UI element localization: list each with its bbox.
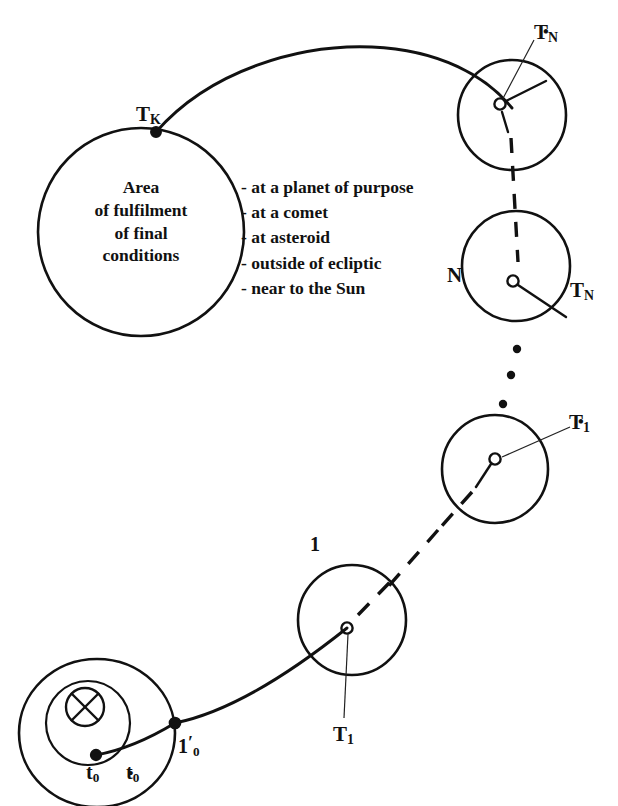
list-item: - at a comet [241, 200, 456, 225]
final-conditions-list: - at a planet of purpose - at a comet - … [241, 175, 456, 301]
label-t0-star-sub: 0 [133, 770, 140, 785]
ellipsis-dot-2 [507, 371, 515, 379]
list-item: - outside of ecliptic [241, 251, 456, 276]
label-tk-sub: K [150, 112, 161, 127]
label-sphere-one: 1 [310, 534, 320, 554]
label-one-prime-zero-base: 1 [178, 735, 188, 757]
label-tk-base: T [136, 102, 150, 126]
dashed-link-n-circles [511, 138, 518, 262]
area-line-1: Area [50, 176, 232, 199]
dashed-inner-segment-lower [358, 580, 392, 615]
label-t0: t0 [86, 762, 99, 784]
label-tn: TN [570, 280, 594, 303]
sphere-n-exit-circle [458, 60, 566, 170]
tn-star-node-marker [494, 98, 505, 109]
ellipsis-dot-3 [499, 400, 507, 408]
label-t1: T1 [333, 724, 354, 747]
dashed-inner-segment-upper [440, 492, 472, 528]
area-line-4: conditions [50, 244, 232, 267]
dashed-link-one-circles [386, 530, 438, 589]
t1-star-leader-line [502, 427, 570, 457]
ellipsis-dot-1 [513, 345, 521, 353]
list-item: - at a planet of purpose [241, 175, 456, 200]
label-t0-star: t0 [126, 762, 139, 784]
label-tk: TK [136, 104, 161, 127]
sphere-one-entry-circle [298, 565, 406, 675]
label-one-prime-zero-sub: 0 [193, 744, 200, 759]
label-t1-star-sub: 1 [583, 420, 590, 435]
label-tn-base: T [570, 278, 584, 302]
list-item: - near to the Sun [241, 276, 456, 301]
label-one-prime-zero: 1′0 [178, 734, 200, 758]
area-line-2: of fulfilment [50, 199, 232, 222]
label-tn-star: TN [534, 22, 558, 45]
label-sphere-one-base: 1 [310, 533, 320, 555]
trajectory-diagram: TK TN TN N T1 T1 1 t0 t0 1′0 Area of ful… [0, 0, 618, 806]
sphere-one-exit-stub [476, 464, 491, 487]
tn-star-spoke [500, 81, 546, 104]
label-t1-base: T [333, 722, 347, 746]
label-t0-sub: 0 [93, 770, 100, 785]
area-of-fulfilment-text: Area of fulfilment of final conditions [50, 176, 232, 267]
label-t1-star: T1 [569, 412, 590, 435]
sphere-one-exit-circle [442, 415, 548, 523]
label-t1-sub: 1 [347, 732, 354, 747]
trajectory-arc-lower [175, 628, 347, 723]
label-tn-sub: N [584, 288, 594, 303]
tk-node-marker [151, 127, 161, 137]
label-t0-base: t [86, 761, 93, 783]
sphere-n-exit-stub [502, 112, 508, 132]
label-tn-star-sub: N [548, 30, 558, 45]
area-line-3: of final [50, 222, 232, 245]
escape-spiral-segment [96, 723, 175, 755]
list-item: - at asteroid [241, 225, 456, 250]
diagram-canvas [0, 0, 618, 806]
inner-orbit-circle [46, 681, 130, 765]
